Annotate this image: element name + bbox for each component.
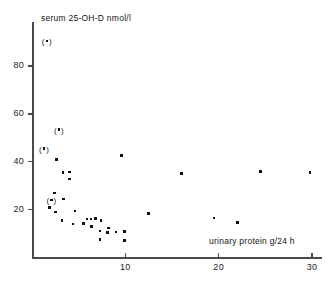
data-point <box>213 217 216 220</box>
data-point-bracketed: () <box>39 146 49 154</box>
x-axis-tick <box>311 253 312 258</box>
data-point <box>68 178 71 181</box>
data-point <box>100 219 103 222</box>
data-point <box>115 231 118 234</box>
x-axis-line <box>32 257 322 259</box>
data-point <box>99 230 102 233</box>
data-point <box>61 219 64 222</box>
y-axis-tick <box>28 113 33 114</box>
data-point <box>120 154 123 157</box>
data-point <box>99 238 102 241</box>
y-axis-tick <box>28 65 33 66</box>
data-point <box>180 172 183 175</box>
x-axis-tick <box>218 253 219 258</box>
y-axis-tick-label: 40 <box>2 156 24 166</box>
x-axis-tick-label: 20 <box>207 262 231 272</box>
y-axis-line <box>32 22 34 259</box>
data-point <box>48 206 51 209</box>
data-point <box>82 222 85 225</box>
data-point <box>236 221 239 224</box>
data-point <box>90 218 93 221</box>
y-axis-tick <box>28 161 33 162</box>
x-axis-tick-label: 10 <box>113 262 137 272</box>
data-point <box>68 171 71 174</box>
data-point-bracketed: () <box>47 197 57 205</box>
x-axis-title: urinary protein g/24 h <box>209 236 295 246</box>
data-point-bracketed: () <box>54 127 64 135</box>
data-point <box>94 217 97 220</box>
data-point <box>123 239 126 242</box>
data-point <box>123 230 126 233</box>
data-point <box>62 171 65 174</box>
data-point-bracketed: () <box>42 38 52 46</box>
data-point <box>74 210 77 213</box>
y-axis-tick-label: 60 <box>2 108 24 118</box>
data-point <box>62 198 65 201</box>
y-axis-tick-label: 80 <box>2 60 24 70</box>
scatter-plot-figure: serum 25-OH-D nmol/l urinary protein g/2… <box>0 0 335 285</box>
data-point <box>259 170 262 173</box>
data-point <box>53 192 56 195</box>
data-point <box>55 158 58 161</box>
data-point <box>90 225 93 228</box>
y-axis-title: serum 25-OH-D nmol/l <box>41 13 131 23</box>
x-axis-tick-label: 30 <box>300 262 324 272</box>
data-point <box>147 212 150 215</box>
x-axis-tick <box>125 253 126 258</box>
data-point <box>54 211 57 214</box>
data-point <box>106 231 109 234</box>
data-point <box>86 218 89 221</box>
data-point <box>309 171 312 174</box>
y-axis-tick <box>28 209 33 210</box>
data-point <box>72 223 75 226</box>
data-point <box>107 227 110 230</box>
y-axis-tick-label: 20 <box>2 204 24 214</box>
